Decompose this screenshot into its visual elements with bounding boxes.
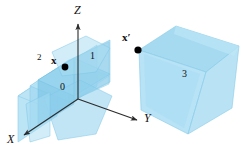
point-x-dot [62,64,69,71]
region-label-3: 3 [182,69,187,79]
region-label-1: 1 [90,51,95,61]
transformed-cube [139,26,239,134]
axis-label-z: Z [74,4,81,16]
point-label-x: x [51,55,57,66]
region-label-0: 0 [60,82,65,92]
region-label-2: 2 [37,53,42,62]
axis-label-x: X [7,133,14,145]
point-label-x-prime: x′ [122,32,131,43]
origin-cube [18,36,112,142]
axis-label-y: Y [144,112,151,124]
point-x-prime-dot [134,46,141,53]
figure-svg [0,0,250,161]
figure-canvas: Z Y X x x′ 2 1 0 3 [0,0,250,161]
